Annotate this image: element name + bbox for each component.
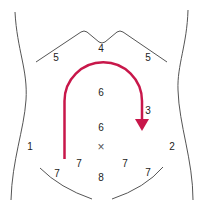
region-7-a-label: 7 — [54, 169, 60, 179]
right-body-outline — [178, 10, 193, 200]
region-3-label: 3 — [145, 106, 151, 116]
region-1-label: 1 — [27, 142, 33, 152]
arrow-head-icon — [135, 119, 149, 131]
region-4-label: 4 — [98, 44, 104, 54]
region-7-c-label: 7 — [122, 159, 128, 169]
left-body-outline — [11, 12, 26, 200]
umbilicus-marker-label: × — [97, 141, 104, 153]
right-pelvic-line — [112, 167, 163, 199]
region-6-upper-label: 6 — [98, 88, 104, 98]
region-5-right-label: 5 — [145, 53, 151, 63]
region-5-left-label: 5 — [53, 53, 59, 63]
region-6-lower-label: 6 — [98, 123, 104, 133]
region-2-label: 2 — [169, 142, 175, 152]
region-7-b-label: 7 — [76, 159, 82, 169]
left-pelvic-line — [40, 168, 92, 199]
region-8-label: 8 — [98, 173, 104, 183]
region-7-d-label: 7 — [145, 168, 151, 178]
